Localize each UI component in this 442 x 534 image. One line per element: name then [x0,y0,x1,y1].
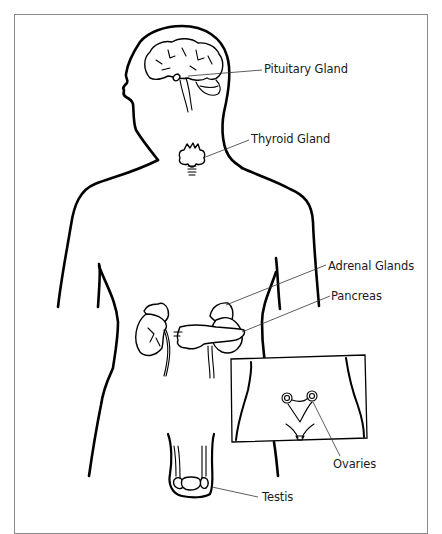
testis [168,434,214,497]
leader-thyroid [203,140,249,158]
label-pancreas: Pancreas [331,289,382,303]
label-testis: Testis [262,490,293,504]
label-adrenal-glands: Adrenal Glands [328,259,414,273]
leader-testis [212,487,258,497]
brain [145,39,223,112]
label-ovaries: Ovaries [333,457,376,471]
thyroid [179,143,205,175]
inset-female [231,355,367,442]
label-pituitary-gland: Pituitary Gland [264,62,348,76]
label-thyroid-gland: Thyroid Gland [251,132,330,146]
leader-pancreas [242,296,330,332]
